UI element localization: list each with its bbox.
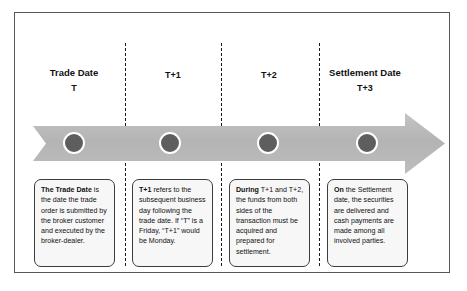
callout-t-plus-2: During T+1 and T+2, the funds from both … (229, 179, 310, 267)
callout-lead: During (236, 186, 259, 194)
period-code: T+2 (221, 69, 317, 82)
period-code: T+3 (317, 82, 413, 95)
callout-body: the Settlement date, the securities are … (334, 186, 394, 245)
period-header-trade-date: Trade Date T (26, 66, 122, 95)
callout-lead: T+1 (139, 186, 151, 194)
period-title: Trade Date (26, 66, 122, 79)
callout-body: T+1 and T+2, the funds from both sides o… (236, 186, 303, 256)
milestone-dot-settlement-date (356, 132, 378, 154)
diagram-canvas: Trade Date T T+1 T+2 Settlement Date T+3… (0, 0, 467, 291)
milestone-dot-t-plus-2 (257, 132, 279, 154)
period-header-settlement-date: Settlement Date T+3 (317, 66, 413, 95)
timeline-arrow (33, 113, 445, 174)
milestone-dot-t-plus-1 (159, 132, 181, 154)
callout-body: refers to the subsequent business day fo… (139, 186, 206, 245)
callout-settlement-date: On the Settlement date, the securities a… (327, 179, 408, 267)
callout-t-plus-1: T+1 refers to the subsequent business da… (132, 179, 213, 267)
milestone-dot-trade-date (63, 132, 85, 154)
diagram-frame: Trade Date T T+1 T+2 Settlement Date T+3… (14, 12, 450, 273)
callout-lead: The Trade Date (41, 186, 92, 194)
callout-trade-date: The Trade Date is the date the trade ord… (34, 179, 115, 267)
period-header-t-plus-1: T+1 (125, 66, 221, 82)
callout-lead: On (334, 186, 344, 194)
period-code: T+1 (125, 69, 221, 82)
callout-body: is the date the trade order is submitted… (41, 186, 107, 245)
period-header-t-plus-2: T+2 (221, 66, 317, 82)
period-title: Settlement Date (317, 66, 413, 79)
period-code: T (26, 82, 122, 95)
